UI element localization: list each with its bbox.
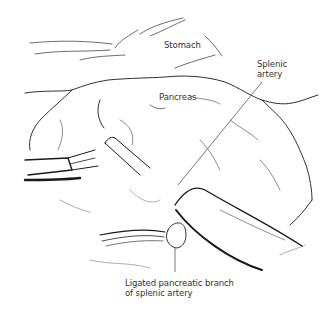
splenic-artery-vessel [175,188,302,270]
label-splenic-line1: Splenic [257,59,287,69]
label-pancreas: Pancreas [159,92,196,102]
ligated-branch [100,223,186,248]
forceps-instrument [25,150,98,180]
retractor [105,137,150,175]
illustration-canvas: Stomach Pancreas Splenic artery Ligated … [0,0,333,311]
label-stomach: Stomach [164,40,201,50]
label-ligated-branch: Ligated pancreatic branch of splenic art… [125,278,234,298]
label-ligated-line1: Ligated pancreatic branch [125,278,234,288]
label-splenic-artery: Splenic artery [257,59,287,79]
label-splenic-line2: artery [257,69,287,79]
label-ligated-line2: of splenic artery [125,288,234,298]
